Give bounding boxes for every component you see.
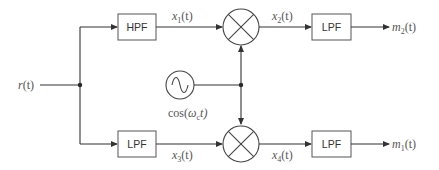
lpf-top-block: LPF — [312, 14, 351, 40]
input-signal-label: r(t) — [18, 78, 34, 92]
svg-text:HPF: HPF — [127, 21, 148, 33]
lpf-bottom-out-block: LPF — [312, 131, 351, 157]
svg-text:LPF: LPF — [322, 138, 341, 150]
signal-label-x1: x1(t) — [171, 9, 193, 25]
signal-label-x2: x2(t) — [271, 9, 293, 25]
block-diagram: r(t) HPF x1(t) x2(t) LPF m2(t) cos(ωc — [0, 0, 439, 170]
svg-text:LPF: LPF — [127, 138, 146, 150]
svg-text:LPF: LPF — [322, 21, 341, 33]
output-label-m1: m1(t) — [392, 137, 416, 153]
signal-label-x4: x4(t) — [271, 148, 293, 164]
multiplier-bottom — [223, 126, 259, 162]
multiplier-top — [223, 9, 259, 45]
signal-label-x3: x3(t) — [171, 148, 193, 164]
oscillator-label: cos(ωct) — [168, 106, 207, 122]
oscillator-icon — [166, 71, 194, 99]
lpf-bottom-in-block: LPF — [118, 131, 156, 157]
output-label-m2: m2(t) — [392, 20, 416, 36]
hpf-block: HPF — [118, 14, 156, 40]
